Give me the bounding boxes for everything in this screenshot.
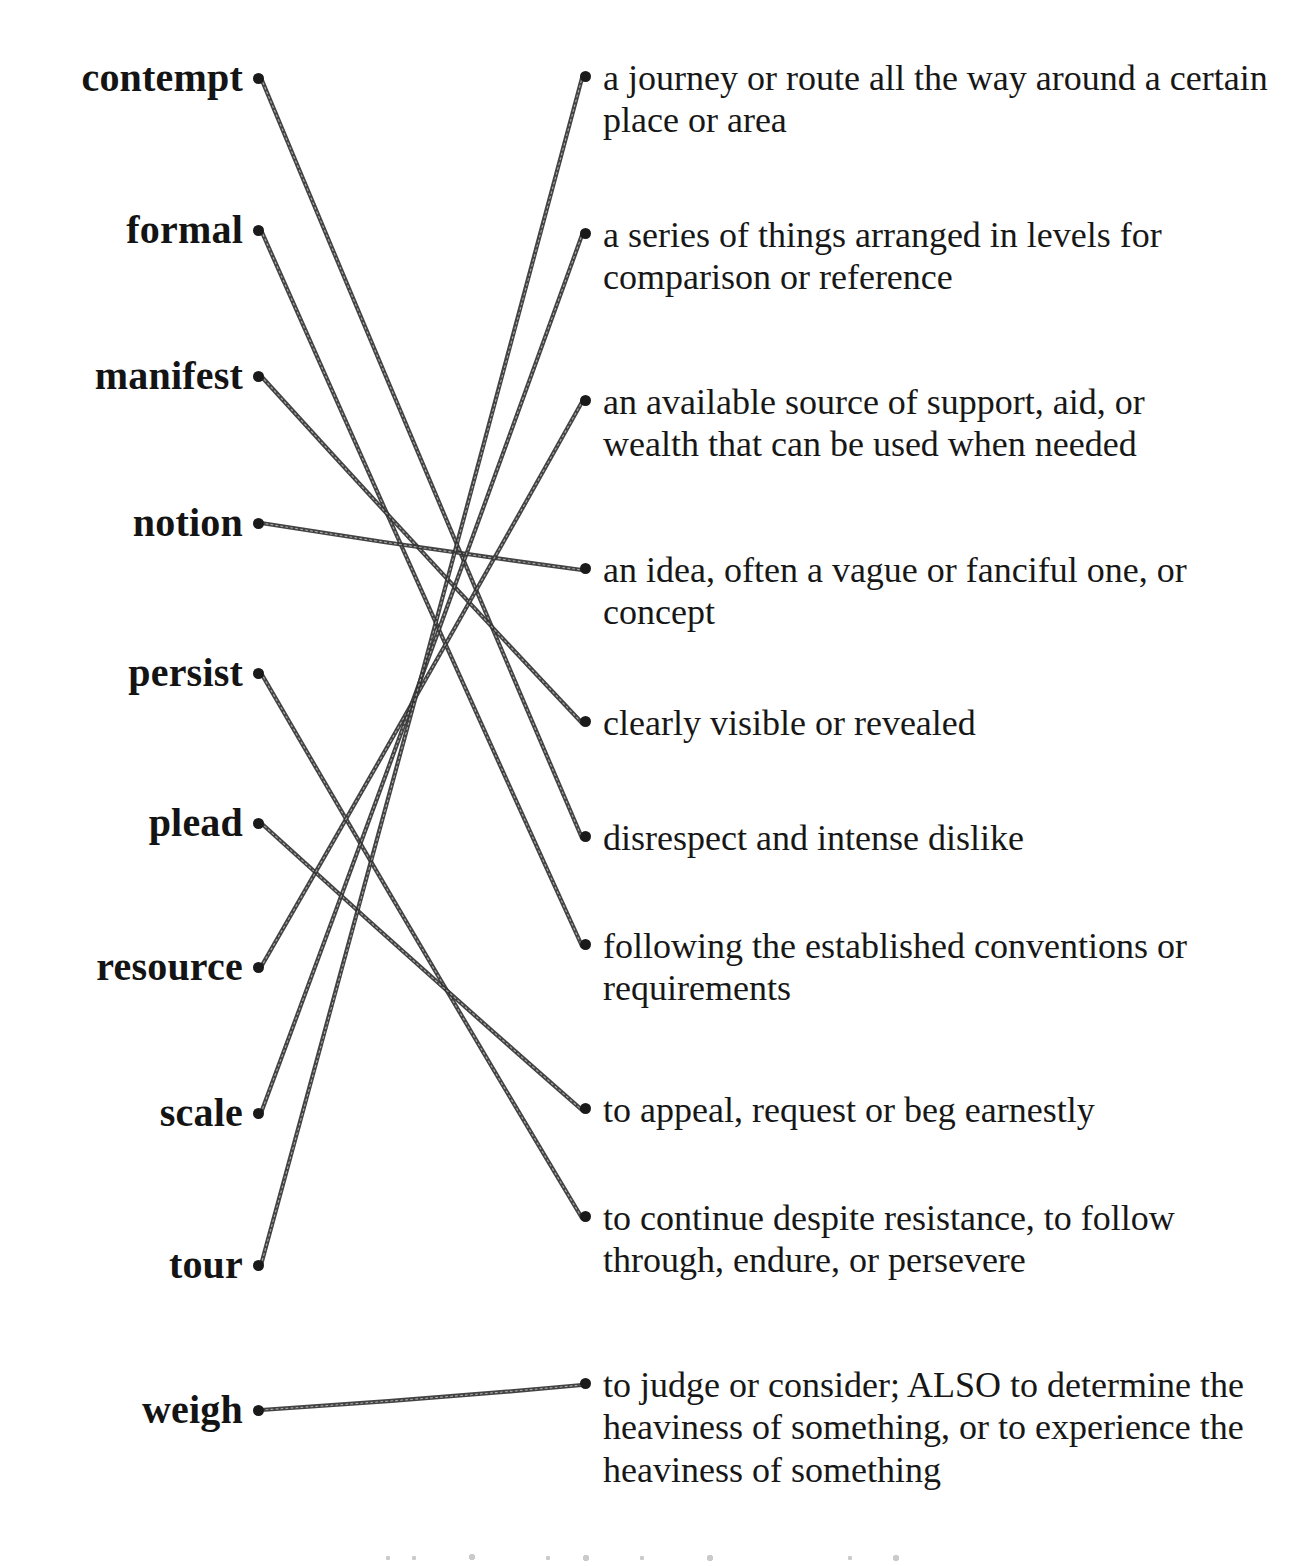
connection-line-texture	[261, 78, 582, 1265]
connection-line-texture	[261, 673, 582, 1218]
definition-item[interactable]: disrespect and intense dislike	[580, 817, 1280, 859]
word-label: formal	[126, 210, 253, 250]
word-label: tour	[169, 1245, 253, 1285]
word-connector-dot[interactable]	[253, 962, 264, 973]
word-label: plead	[149, 803, 253, 843]
word-connector-dot[interactable]	[253, 1108, 264, 1119]
word-item-manifest[interactable]: manifest	[0, 354, 264, 398]
connection-line-persist	[261, 673, 582, 1218]
definition-item[interactable]: an available source of support, aid, or …	[580, 381, 1240, 466]
definition-item[interactable]: to continue despite resistance, to follo…	[580, 1197, 1280, 1282]
word-connector-dot[interactable]	[253, 518, 264, 529]
definition-text: a journey or route all the way around a …	[591, 57, 1280, 142]
connection-line-scale	[261, 235, 582, 1113]
word-item-formal[interactable]: formal	[0, 208, 264, 252]
word-connector-dot[interactable]	[253, 1405, 264, 1416]
definition-text: to continue despite resistance, to follo…	[591, 1197, 1280, 1282]
connection-line-texture	[261, 376, 582, 723]
definition-connector-dot[interactable]	[580, 1211, 591, 1222]
connection-line-formal	[261, 230, 582, 946]
definition-text: disrespect and intense dislike	[591, 817, 1024, 859]
definition-text: a series of things arranged in levels fo…	[591, 214, 1260, 299]
definition-connector-dot[interactable]	[580, 395, 591, 406]
word-label: persist	[128, 653, 253, 693]
definition-connector-dot[interactable]	[580, 939, 591, 950]
connection-line-texture	[261, 78, 582, 838]
definition-text: clearly visible or revealed	[591, 702, 976, 744]
word-item-resource[interactable]: resource	[0, 945, 264, 989]
definition-connector-dot[interactable]	[580, 716, 591, 727]
word-label: scale	[160, 1093, 253, 1133]
word-connector-dot[interactable]	[253, 225, 264, 236]
definition-text: an idea, often a vague or fanciful one, …	[591, 549, 1250, 634]
word-item-contempt[interactable]: contempt	[0, 56, 264, 100]
definition-item[interactable]: a journey or route all the way around a …	[580, 57, 1280, 142]
definition-text: to appeal, request or beg earnestly	[591, 1089, 1095, 1131]
word-connector-dot[interactable]	[253, 668, 264, 679]
definition-text: to judge or consider; ALSO to determine …	[591, 1364, 1280, 1491]
connection-line-manifest	[261, 376, 582, 723]
word-item-persist[interactable]: persist	[0, 651, 264, 695]
word-item-scale[interactable]: scale	[0, 1091, 264, 1135]
word-item-tour[interactable]: tour	[0, 1243, 264, 1287]
connection-line-notion	[261, 523, 582, 570]
definition-text: following the established conventions or…	[591, 925, 1270, 1010]
definition-connector-dot[interactable]	[580, 1103, 591, 1114]
connection-line-plead	[261, 823, 582, 1110]
connection-line-texture	[261, 823, 582, 1110]
definition-connector-dot[interactable]	[580, 71, 591, 82]
definition-item[interactable]: following the established conventions or…	[580, 925, 1270, 1010]
connection-line-texture	[261, 1385, 582, 1410]
definition-connector-dot[interactable]	[580, 831, 591, 842]
definition-item[interactable]: an idea, often a vague or fanciful one, …	[580, 549, 1250, 634]
definition-item[interactable]: to appeal, request or beg earnestly	[580, 1089, 1280, 1131]
word-item-plead[interactable]: plead	[0, 801, 264, 845]
connection-line-texture	[261, 523, 582, 570]
word-label: weigh	[142, 1390, 253, 1430]
word-connector-dot[interactable]	[253, 818, 264, 829]
connection-line-contempt	[261, 78, 582, 838]
connection-line-resource	[261, 402, 582, 967]
definition-connector-dot[interactable]	[580, 228, 591, 239]
word-label: manifest	[95, 356, 253, 396]
connection-line-texture	[261, 230, 582, 946]
definition-item[interactable]: clearly visible or revealed	[580, 702, 1280, 744]
connection-line-weigh	[261, 1385, 582, 1410]
word-connector-dot[interactable]	[253, 1260, 264, 1271]
word-label: resource	[96, 947, 253, 987]
definition-item[interactable]: to judge or consider; ALSO to determine …	[580, 1364, 1280, 1491]
definition-text: an available source of support, aid, or …	[591, 381, 1240, 466]
definition-connector-dot[interactable]	[580, 1378, 591, 1389]
word-label: notion	[133, 503, 253, 543]
word-item-weigh[interactable]: weigh	[0, 1388, 264, 1432]
definition-connector-dot[interactable]	[580, 563, 591, 574]
word-item-notion[interactable]: notion	[0, 501, 264, 545]
connection-line-tour	[261, 78, 582, 1265]
word-connector-dot[interactable]	[253, 371, 264, 382]
definition-item[interactable]: a series of things arranged in levels fo…	[580, 214, 1260, 299]
worksheet-page: contemptformalmanifestnotionpersistplead…	[0, 0, 1306, 1566]
word-connector-dot[interactable]	[253, 73, 264, 84]
word-label: contempt	[81, 58, 253, 98]
connection-line-texture	[261, 235, 582, 1113]
connection-line-texture	[261, 402, 582, 967]
page-bottom-artifact	[380, 1552, 940, 1564]
